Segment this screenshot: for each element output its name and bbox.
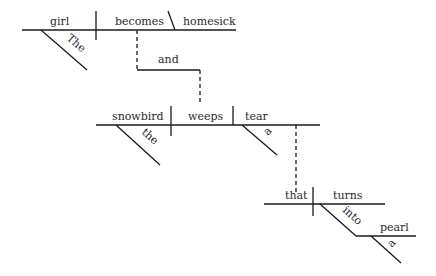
- clause2-verb: weeps: [188, 110, 223, 123]
- clause1-subject: girl: [50, 15, 70, 28]
- relative-verb: turns: [333, 189, 363, 202]
- sentence-diagram: girl becomes homesick The and snowbird w…: [0, 0, 436, 276]
- clause2-subject-modifier: the: [139, 126, 161, 148]
- clause2-subject: snowbird: [112, 110, 164, 123]
- clause2-object: tear: [245, 110, 268, 123]
- clause1-verb: becomes: [115, 15, 164, 28]
- conjunction-word: and: [158, 53, 179, 66]
- relative-subject: that: [285, 189, 308, 202]
- clause1-complement-divider: [168, 11, 175, 30]
- relative-prep-object-modifier: a: [384, 236, 398, 250]
- relative-prep-object: pearl: [380, 221, 409, 234]
- clause1-complement: homesick: [183, 15, 236, 28]
- clause1-subject-modifier: The: [64, 31, 88, 55]
- clause2-object-modifier: a: [260, 124, 274, 138]
